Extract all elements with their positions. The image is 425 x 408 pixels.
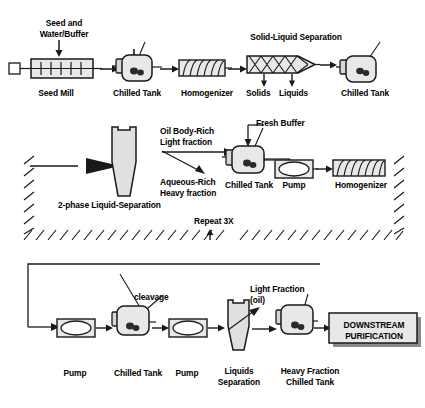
solids-outlet-arrow bbox=[258, 74, 270, 88]
seed-mill-label: Seed Mill bbox=[16, 88, 96, 99]
repeat-arrow bbox=[204, 229, 216, 241]
pump-1-label: Pump bbox=[272, 180, 316, 191]
chilled-tank-1 bbox=[112, 40, 162, 86]
pump-2-label: Pump bbox=[52, 368, 98, 379]
pump-3 bbox=[168, 317, 212, 339]
arrow-homogenizer-to-separator bbox=[228, 62, 248, 76]
liquids-label: Liquids bbox=[279, 88, 308, 99]
liquids-separation-label: Liquids Separation bbox=[206, 366, 272, 387]
liquids-outlet-arrow bbox=[286, 74, 298, 88]
pump-3-label: Pump bbox=[164, 368, 210, 379]
chilled-tank-4-label: Chilled Tank bbox=[104, 368, 172, 379]
chilled-tank-3-label: Chilled Tank bbox=[218, 180, 280, 191]
chilled-tank-4 bbox=[110, 298, 162, 342]
recycle-band-right bbox=[392, 152, 410, 234]
downstream-purification-label: DOWNSTREAM PURIFICATION bbox=[330, 320, 418, 341]
chilled-tank-2-label: Chilled Tank bbox=[330, 88, 400, 99]
chilled-tank-1-label: Chilled Tank bbox=[98, 88, 176, 99]
light-fraction-label: Oil Body-Rich Light fraction bbox=[160, 126, 214, 147]
homogenizer-2-label: Homogenizer bbox=[326, 180, 396, 191]
solids-label: Solids bbox=[246, 88, 271, 99]
chilled-tank-2 bbox=[336, 38, 388, 86]
process-flow-diagram: Seed and Water/Buffer Seed Mill bbox=[0, 0, 425, 408]
homogenizer-1 bbox=[178, 57, 232, 81]
heavy-fraction-chilled-tank-label: Heavy Fraction Chilled Tank bbox=[270, 366, 350, 387]
pump-2 bbox=[56, 317, 100, 339]
two-phase-separator-label: 2-phase Liquid-Separation bbox=[58, 200, 161, 211]
feed-label: Seed and Water/Buffer bbox=[18, 18, 110, 39]
two-phase-liquid-separator bbox=[104, 124, 144, 202]
arrow-tank-to-homogenizer bbox=[160, 62, 180, 76]
homogenizer-1-label: Homogenizer bbox=[172, 88, 242, 99]
seed-mill bbox=[8, 55, 104, 83]
pump-1 bbox=[274, 158, 318, 180]
heavy-fraction-arrow bbox=[162, 150, 210, 178]
homogenizer-2 bbox=[332, 157, 390, 181]
heavy-fraction-label: Aqueous-Rich Heavy fraction bbox=[160, 177, 216, 198]
repeat-label: Repeat 3X bbox=[194, 216, 234, 227]
